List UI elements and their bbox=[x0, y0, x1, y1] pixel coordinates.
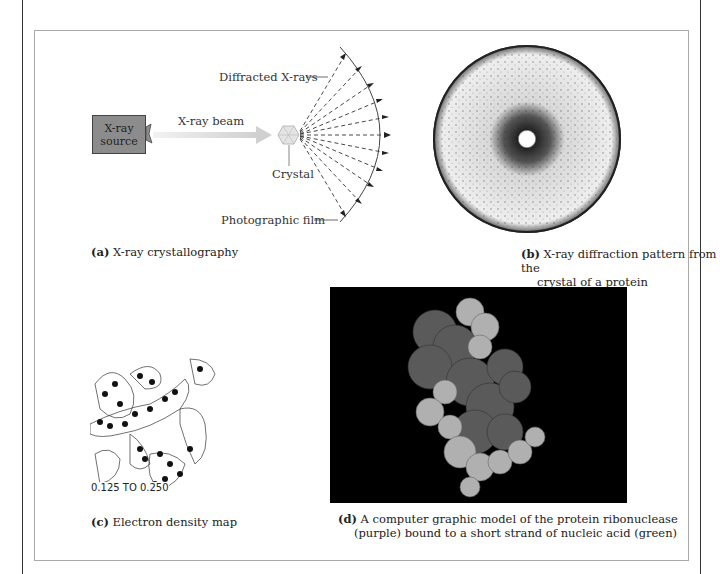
caption-c-letter: (c) bbox=[91, 515, 109, 529]
electron-density-map-image bbox=[90, 354, 220, 494]
caption-d: (d) A computer graphic model of the prot… bbox=[338, 512, 678, 540]
crystal-label: Crystal bbox=[272, 167, 314, 181]
caption-d-letter: (d) bbox=[338, 512, 357, 526]
caption-b-line1: X-ray diffraction pattern from the bbox=[521, 247, 716, 275]
caption-d-line2: (purple) bound to a short strand of nucl… bbox=[338, 526, 678, 540]
caption-a: (a) X-ray crystallography bbox=[91, 245, 238, 259]
density-range-label: 0.125 TO 0.250 bbox=[91, 482, 169, 493]
caption-d-line1: A computer graphic model of the protein … bbox=[357, 512, 678, 526]
caption-c: (c) Electron density map bbox=[91, 515, 237, 529]
ribonuclease-model-image bbox=[330, 287, 627, 503]
diffracted-xrays-label: Diffracted X-rays bbox=[219, 70, 318, 84]
caption-c-text: Electron density map bbox=[109, 515, 237, 529]
caption-b: (b) X-ray diffraction pattern from the c… bbox=[521, 247, 720, 289]
diffraction-pattern-image bbox=[433, 45, 633, 245]
photographic-film-label: Photographic film bbox=[221, 213, 325, 227]
caption-b-letter: (b) bbox=[521, 247, 540, 261]
beam-label: X-ray beam bbox=[178, 114, 244, 128]
caption-a-letter: (a) bbox=[91, 245, 109, 259]
caption-a-text: X-ray crystallography bbox=[109, 245, 238, 259]
